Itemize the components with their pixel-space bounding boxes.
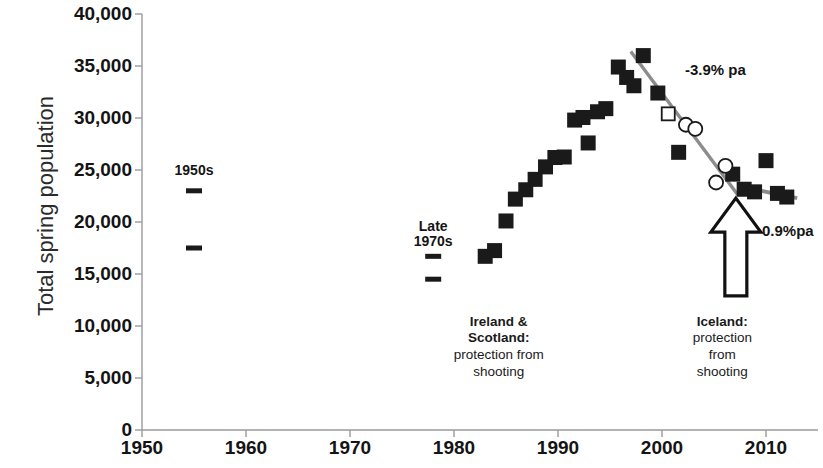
x-tick-label: 1950 — [121, 437, 163, 459]
chart-root: Total spring population 40,00035,00030,0… — [0, 0, 823, 468]
data-point-open-circle — [718, 159, 732, 173]
iceland-protection-arrow — [711, 198, 761, 296]
era-label: 1950s — [175, 162, 214, 178]
data-point-open-circle — [709, 175, 723, 189]
x-tick-label: 1960 — [225, 437, 267, 459]
data-point-filled-square — [636, 48, 651, 63]
data-point-filled-square — [747, 184, 762, 199]
iceland-note: Iceland:protectionfromshooting — [693, 314, 752, 382]
y-tick-label: 35,000 — [20, 55, 132, 77]
annotation-body-line: shooting — [693, 364, 752, 381]
annotation-heading-line: Scotland: — [454, 330, 544, 347]
trend-rate-label: -3.9% pa — [685, 61, 746, 78]
data-point-filled-square — [581, 135, 596, 150]
data-point-filled-square — [779, 190, 794, 205]
y-tick-label: 5,000 — [20, 367, 132, 389]
data-point-filled-square — [626, 78, 641, 93]
y-tick-label: 15,000 — [20, 263, 132, 285]
x-tick-label: 2010 — [745, 437, 787, 459]
era-label: 1970s — [414, 233, 453, 249]
data-point-filled-square — [650, 86, 665, 101]
y-tick-label: 20,000 — [20, 211, 132, 233]
data-point-filled-square — [499, 213, 514, 228]
y-tick-label: 25,000 — [20, 159, 132, 181]
annotation-body-line: protection — [693, 330, 752, 347]
era-label: Late — [419, 218, 448, 234]
annotation-heading-line: Iceland: — [693, 314, 752, 331]
annotation-body-line: shooting — [454, 364, 544, 381]
data-point-filled-square — [671, 145, 686, 160]
y-tick-label: 10,000 — [20, 315, 132, 337]
range-dash-marker — [425, 254, 441, 259]
data-point-filled-square — [575, 110, 590, 125]
annotation-heading-line: Ireland & — [454, 314, 544, 331]
x-tick-label: 1980 — [433, 437, 475, 459]
data-point-open-square — [662, 107, 675, 120]
range-dash-marker — [186, 246, 202, 251]
data-point-filled-square — [557, 150, 572, 165]
y-tick-label: 0 — [20, 419, 132, 441]
data-point-filled-square — [487, 243, 502, 258]
x-tick-label: 1970 — [329, 437, 371, 459]
y-tick-label: 40,000 — [20, 3, 132, 25]
ireland-scotland-note: Ireland &Scotland:protection fromshootin… — [454, 314, 544, 382]
x-tick-label: 2000 — [641, 437, 683, 459]
annotation-body-line: protection from — [454, 347, 544, 364]
range-dash-marker — [425, 277, 441, 282]
range-dash-marker — [186, 188, 202, 193]
data-point-filled-square — [759, 153, 774, 168]
data-point-open-circle — [688, 122, 702, 136]
y-tick-label: 30,000 — [20, 107, 132, 129]
data-point-filled-square — [598, 101, 613, 116]
x-tick-label: 1990 — [537, 437, 579, 459]
trend-rate-label: -0.9%pa — [757, 222, 814, 239]
annotation-body-line: from — [693, 347, 752, 364]
